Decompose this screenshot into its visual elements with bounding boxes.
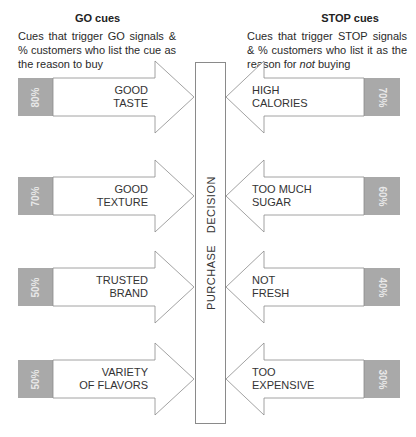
go-cue-label: VARIETYOF FLAVORS	[70, 366, 148, 392]
stop-cue-label: TOOEXPENSIVE	[252, 366, 352, 392]
go-percent: 50%	[18, 268, 53, 306]
stop-percent: 70%	[364, 78, 400, 116]
go-percent: 70%	[18, 177, 53, 215]
go-percent: 50%	[18, 360, 53, 398]
stop-percent: 60%	[364, 177, 400, 215]
go-cue-label: GOODTASTE	[70, 84, 148, 110]
stop-percent: 40%	[364, 268, 400, 306]
go-cue-label: GOODTEXTURE	[70, 183, 148, 209]
go-percent: 80%	[18, 78, 53, 116]
stop-cue-label: TOO MUCHSUGAR	[252, 183, 352, 209]
purchase-decision-label: PURCHASE DECISION	[196, 62, 225, 423]
stop-cue-label: NOTFRESH	[252, 274, 352, 300]
stop-cue-label: HIGHCALORIES	[252, 84, 352, 110]
stop-percent: 30%	[364, 360, 400, 398]
go-cue-label: TRUSTEDBRAND	[70, 274, 148, 300]
